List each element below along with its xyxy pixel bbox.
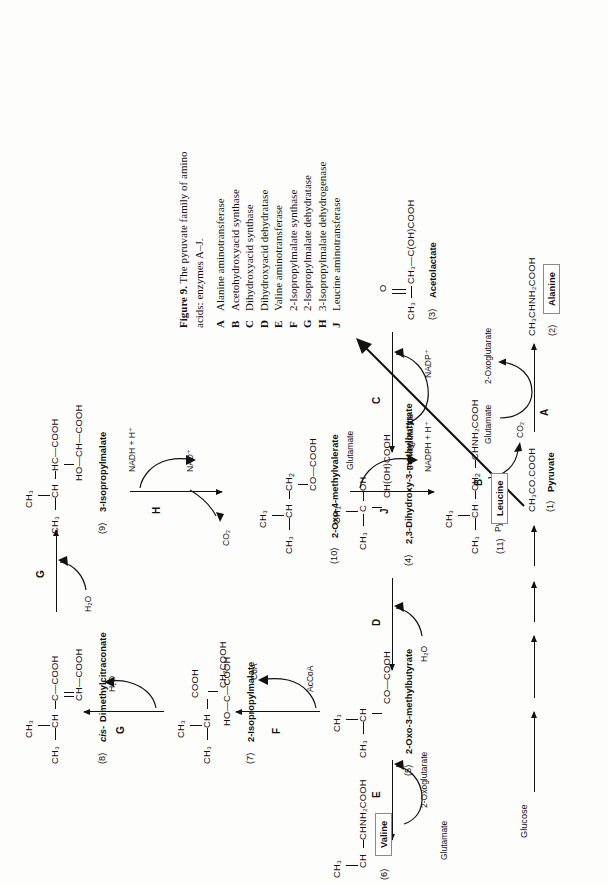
enzyme-entry-j: J Leucine aminotransferase — [329, 28, 344, 328]
enzyme-label-j: J — [380, 508, 391, 514]
c7-frag-cooh: COOH — [190, 669, 200, 698]
cofactor-h-in: NADH + H⁺ — [128, 427, 137, 472]
c10-frag-cocooh: CO—COOH — [308, 438, 318, 491]
enzyme-entry-c: C Dihydroxyacid synthase — [242, 28, 257, 328]
c11-frag-ch3-left: CH₃ — [470, 536, 480, 554]
enzyme-entry-g: G 2-Isopropylmalate dehydratase — [300, 28, 315, 328]
c6-bond-h2 — [363, 840, 364, 848]
caption-line-1: Figure 9. The pyruvate family of amino — [176, 28, 191, 328]
c10-frag-ch3-top: CH₃ — [258, 510, 268, 528]
caption-text-line1: The pyruvate family of amino — [177, 152, 189, 284]
enzyme-key-name: 2-Isopropylmalate synthase — [286, 190, 301, 311]
enzyme-label-f: F — [272, 728, 283, 734]
c7-frag-ch2cooh: CH₂COOH — [218, 641, 228, 688]
c8-bond-h1 — [55, 728, 56, 740]
cofactor-b-out: CO₂ — [516, 422, 525, 438]
arrow-enzyme-j — [350, 491, 434, 492]
c11-frag-ch: CH — [470, 504, 480, 518]
enzyme-key-letter: J — [329, 318, 344, 328]
c6-frag-ch: CH — [358, 854, 368, 868]
arrow-glycolysis-1 — [534, 712, 535, 792]
enzyme-label-g1: G — [116, 726, 127, 734]
cofactor-curve-h-co2 — [186, 484, 230, 526]
c8-frag-ch: CH — [50, 714, 60, 728]
c9-name: 3-Isopropylmalate — [98, 432, 108, 512]
caption-title: Figure 9. — [177, 286, 189, 328]
cofactor-g1-out: H₂O — [108, 676, 117, 692]
c11-bond-h3 — [475, 460, 476, 468]
c9-frag-hccooh: HC—COOH — [50, 419, 60, 471]
enzyme-label-c: C — [372, 397, 383, 404]
cofactor-h-co2: CO₂ — [222, 530, 231, 546]
cofactor-c-out: NADP⁺ — [424, 349, 433, 378]
c5-frag-ch: CH — [358, 708, 368, 722]
enzyme-key-name: Leucine aminotransferase — [329, 198, 344, 311]
enzyme-entry-h: H 3-Isopropylmalate dehydrogenase — [315, 28, 330, 328]
c7-frag-ch3-left: CH₃ — [202, 746, 212, 764]
alanine-number: (2) — [548, 325, 558, 336]
c8-number: (8) — [98, 753, 108, 764]
c10-bond-h2 — [289, 491, 290, 499]
c7-frag-ch3-top: CH₃ — [176, 720, 186, 738]
c11-number: (11) — [496, 538, 506, 554]
c5-frag-ch3-top: CH₃ — [332, 714, 342, 732]
cofactor-j-out: 2-Oxoglutarate — [406, 414, 415, 470]
valine-box: Valine — [375, 813, 392, 856]
acetolactate-bond-h1 — [411, 286, 412, 298]
c10-frag-ch: CH — [284, 504, 294, 518]
enzyme-key-name: Dihydroxyacid synthase — [242, 204, 257, 311]
enzyme-key-name: 3-Isopropylmalate dehydrogenase — [315, 162, 330, 311]
c5-bond-h1 — [363, 722, 364, 734]
c11-frag-ch3-top: CH₃ — [444, 510, 454, 528]
c7-frag-ch: CH — [202, 714, 212, 728]
enzyme-key-name: Alanine aminotransferase — [213, 198, 228, 311]
cofactor-h-out: NAD⁺ — [186, 449, 195, 472]
c7-number: (7) — [246, 753, 256, 764]
enzyme-key-letter: D — [257, 318, 272, 328]
alanine-box: Alanine — [543, 264, 560, 314]
arrow-glycolysis-2 — [534, 636, 535, 698]
enzyme-key-name: Dihydroxyacid dehydratase — [257, 190, 272, 311]
enzyme-key-letter: E — [271, 318, 286, 328]
c8-frag-chcooh: CH—COOH — [74, 649, 84, 701]
enzyme-key-letter: G — [300, 318, 315, 328]
c9-frag-ch: CH — [50, 484, 60, 498]
enzyme-label-d: D — [372, 619, 383, 626]
cofactor-e-out: Glutamate — [440, 821, 449, 860]
c7-name: 2-Isopropylmalate — [246, 662, 256, 742]
pyruvate-name: Pyruvate — [546, 452, 556, 492]
c7-bond-h2 — [207, 699, 208, 709]
c10-number: (10) — [330, 548, 340, 564]
figure-page: Glucose CH₃CO.COOH (1) Pyruvate A Glutam… — [0, 0, 608, 884]
c8-frag-ccooh: C—COOH — [50, 656, 60, 701]
caption-line-2: acids: enzymes A–J. — [192, 28, 207, 328]
c6-number: (6) — [380, 869, 390, 880]
c6-frag-chnh2cooh: CHNH₂COOH — [358, 779, 368, 840]
enzyme-key-name: Acetohydroxyacid synthase — [228, 189, 243, 311]
c9-frag-hochcooh: HO—CH—COOH — [74, 405, 84, 481]
enzyme-key-letter: F — [286, 318, 301, 328]
acetolactate-frag-main: CH₃—C(OH)COOH — [406, 199, 416, 284]
c9-frag-ch3-top: CH₃ — [24, 490, 34, 508]
acetolactate-frag-ch3: CH₃ — [406, 302, 416, 320]
enzyme-entry-e: E Valine aminotransferase — [271, 28, 286, 328]
enzyme-label-h: H — [152, 507, 163, 514]
c8-name-prefix: cis- — [98, 726, 108, 742]
enzyme-key-name: Valine aminotransferase — [271, 205, 286, 311]
c8-frag-ch3-top: CH₃ — [24, 720, 34, 738]
figure-caption: Figure 9. The pyruvate family of amino a… — [176, 28, 344, 328]
enzyme-key-letter: C — [242, 318, 257, 328]
c11-bond-h1 — [475, 518, 476, 530]
c4-bond-h2 — [363, 491, 364, 501]
c8-name: Dimethylcitraconate — [98, 632, 108, 722]
enzyme-label-a: A — [540, 409, 551, 416]
c10-frag-ch3-left: CH₃ — [284, 536, 294, 554]
c5-bond-v2 — [372, 713, 382, 714]
pyruvate-number: (1) — [546, 501, 556, 512]
arrow-glycolysis-4 — [534, 526, 535, 566]
enzyme-entry-a: A Alanine aminotransferase — [213, 28, 228, 328]
c7-bond-h1 — [207, 728, 208, 740]
glucose-label: Glucose — [520, 804, 530, 838]
c8-bond-h2 — [55, 701, 56, 709]
cofactor-j-in: Glutamate — [346, 431, 355, 470]
